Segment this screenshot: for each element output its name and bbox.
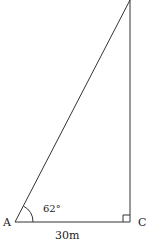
triangle-diagram <box>0 0 149 248</box>
base-length-label: 30m <box>55 230 79 241</box>
vertex-label-A: A <box>3 217 11 228</box>
angle-label: 62° <box>43 204 61 214</box>
hypotenuse <box>15 0 130 222</box>
angle-arc-A <box>24 206 34 222</box>
right-angle-marker <box>123 215 130 222</box>
vertex-label-C: C <box>138 217 146 228</box>
